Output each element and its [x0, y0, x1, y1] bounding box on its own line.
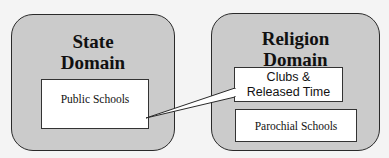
- callout-connector: [0, 0, 389, 158]
- callout-wedge: [146, 88, 235, 118]
